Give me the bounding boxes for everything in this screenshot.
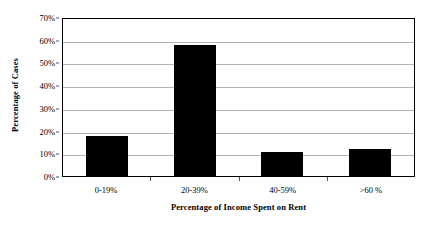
y-axis-tick-label: 10% [39, 150, 55, 159]
y-axis-tick-label: 30% [39, 105, 55, 114]
x-axis-tick-marks [62, 177, 415, 182]
bar-chart: Percentage of Cases 0%10%20%30%40%50%60%… [0, 0, 430, 227]
y-axis-tick-label: 40% [39, 82, 55, 91]
y-axis-tick-mark [56, 154, 59, 155]
bar[interactable] [261, 152, 303, 176]
y-axis-tick-label: 50% [39, 59, 55, 68]
y-axis-tick-label: 0% [44, 173, 55, 182]
y-axis-tick-label: 20% [39, 127, 55, 136]
y-axis-tick-label: 60% [39, 36, 55, 45]
y-axis-tick-mark [56, 177, 59, 178]
x-axis-tick-label: >60 % [327, 183, 415, 199]
x-axis-tick-mark [150, 177, 151, 181]
bar[interactable] [86, 136, 128, 176]
y-axis-title-label: Percentage of Cases [10, 58, 20, 132]
y-axis-tick-label: 70% [39, 14, 55, 23]
y-axis-tick-mark [56, 40, 59, 41]
y-axis-tick-mark [56, 86, 59, 87]
y-axis-tick-mark [56, 108, 59, 109]
bar-slot [239, 19, 327, 176]
y-axis-title: Percentage of Cases [0, 0, 30, 190]
x-axis-tick-mark [327, 177, 328, 181]
bar[interactable] [174, 45, 216, 176]
x-axis-tick-label: 0-19% [62, 183, 150, 199]
bar[interactable] [349, 149, 391, 176]
x-axis-tick-label: 20-39% [150, 183, 238, 199]
y-axis-tick-mark [56, 131, 59, 132]
bars-layer [63, 19, 414, 176]
plot-area [62, 18, 415, 177]
x-axis-tick-labels: 0-19%20-39%40-59%>60 % [62, 183, 415, 199]
bar-slot [151, 19, 239, 176]
y-axis-tick-labels: 0%10%20%30%40%50%60%70% [28, 18, 59, 177]
bar-slot [63, 19, 151, 176]
x-axis-tick-mark [239, 177, 240, 181]
x-axis-tick-label: 40-59% [239, 183, 327, 199]
bar-slot [326, 19, 414, 176]
y-axis-tick-mark [56, 18, 59, 19]
x-axis-title: Percentage of Income Spent on Rent [62, 202, 415, 212]
y-axis-tick-mark [56, 63, 59, 64]
